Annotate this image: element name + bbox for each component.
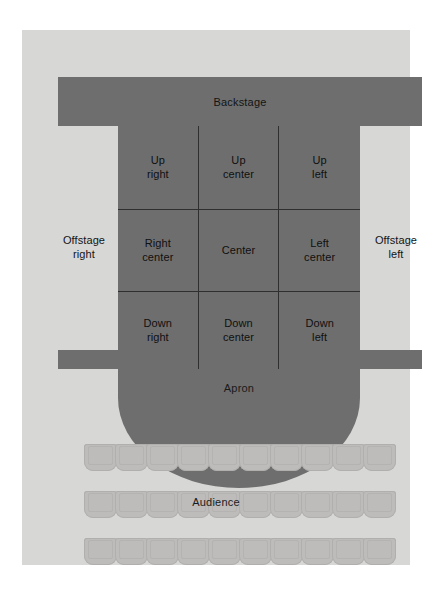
stage-cell-up-left: Up left (279, 126, 360, 210)
cell-line-2: center (223, 331, 254, 343)
audience-seat (146, 444, 179, 471)
audience-seat (363, 538, 396, 565)
audience-seat (146, 538, 179, 565)
offstage-right-label: Offstage right (48, 233, 120, 262)
audience-seat (84, 444, 117, 471)
offstage-left-label: Offstage left (360, 233, 432, 262)
audience-seat (270, 538, 303, 565)
cell-line-1: Left (310, 237, 329, 249)
stage-grid: Up right Up center Up left Right (118, 126, 360, 369)
audience-seat (239, 444, 272, 471)
cell-line-2: right (147, 168, 169, 180)
diagram-panel: Backstage Apron Up right Up center (22, 30, 410, 565)
stage-cell-down-left: Down left (279, 292, 360, 369)
cell-line-1: Right (145, 237, 171, 249)
stage-cell-up-center: Up center (199, 126, 280, 210)
audience-row-1 (85, 444, 395, 471)
audience-seat (332, 444, 365, 471)
stage-diagram-page: Backstage Apron Up right Up center (0, 0, 436, 596)
audience-seat (363, 444, 396, 471)
cell-line-1: Center (222, 244, 256, 256)
stage-cell-down-right: Down right (118, 292, 199, 369)
audience-seat (208, 444, 241, 471)
cell-line-2: center (223, 168, 254, 180)
audience-seat (301, 444, 334, 471)
stage-cell-right-center: Right center (118, 210, 199, 292)
cell-line-2: left (312, 331, 327, 343)
audience-seat (208, 538, 241, 565)
offstage-right-line-1: Offstage (63, 234, 105, 246)
stage-cell-down-center: Down center (199, 292, 280, 369)
cell-line-1: Down (305, 317, 334, 329)
cell-line-1: Up (151, 154, 165, 166)
audience-seat (177, 538, 210, 565)
backstage-label: Backstage (213, 96, 266, 108)
audience-row-3 (85, 538, 395, 565)
offstage-right-line-2: right (73, 248, 95, 260)
wing-right-bar (58, 350, 118, 369)
cell-line-1: Down (224, 317, 253, 329)
cell-line-1: Up (313, 154, 327, 166)
audience-seat (177, 444, 210, 471)
stage-cell-left-center: Left center (279, 210, 360, 292)
cell-line-2: left (312, 168, 327, 180)
stage-cell-center: Center (199, 210, 280, 292)
stage-cell-up-right: Up right (118, 126, 199, 210)
audience-seat (332, 538, 365, 565)
audience-seat (301, 538, 334, 565)
audience-seat (239, 538, 272, 565)
audience-seat (84, 538, 117, 565)
wing-left-bar (360, 350, 422, 369)
audience-seat (115, 538, 148, 565)
cell-line-2: center (142, 251, 173, 263)
backstage-area: Backstage (58, 77, 422, 126)
cell-line-2: right (147, 331, 169, 343)
cell-line-1: Up (231, 154, 245, 166)
audience-seat (270, 444, 303, 471)
offstage-left-line-2: left (388, 248, 403, 260)
cell-line-2: center (304, 251, 335, 263)
apron-label: Apron (118, 382, 360, 394)
audience-label: Audience (22, 496, 410, 508)
cell-line-1: Down (144, 317, 173, 329)
offstage-left-line-1: Offstage (375, 234, 417, 246)
audience-seat (115, 444, 148, 471)
